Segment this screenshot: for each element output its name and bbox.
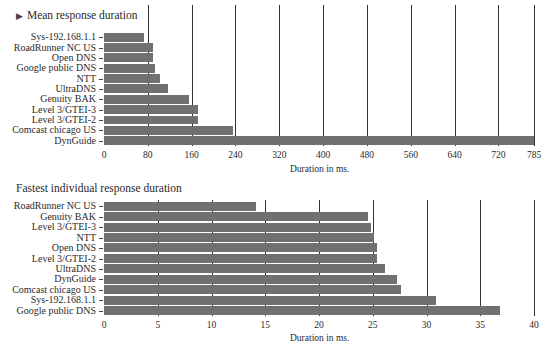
category-label: DynGuide (0, 274, 96, 284)
triangle-marker-icon: ▶ (16, 11, 23, 21)
tick-mark (99, 300, 103, 301)
bar (104, 254, 377, 263)
category-label: DynGuide (0, 136, 96, 146)
x-tick-label: 560 (404, 150, 418, 160)
x-tick-label: 80 (143, 150, 153, 160)
gridline (192, 5, 193, 146)
tick-mark (99, 279, 103, 280)
x-tick-label: 35 (476, 320, 486, 330)
category-label: Genuity BAK (0, 94, 96, 104)
x-tick-label: 640 (447, 150, 461, 160)
x-tick-label: 320 (272, 150, 286, 160)
tick-mark (99, 89, 103, 90)
x-tick-label: 10 (207, 320, 217, 330)
x-tick-label: 400 (316, 150, 330, 160)
gridline (411, 5, 412, 146)
bar (104, 306, 500, 315)
x-tick-label: 0 (102, 150, 107, 160)
category-label: RoadRunner NC US (0, 201, 96, 211)
x-tick-label: 20 (314, 320, 324, 330)
chart1-title-text: Mean response duration (27, 9, 138, 21)
bar (104, 74, 160, 83)
x-tick-label: 5 (155, 320, 160, 330)
gridline (498, 5, 499, 146)
bar (104, 84, 168, 93)
chart2-title: Fastest individual response duration (16, 182, 182, 194)
tick-mark (99, 259, 103, 260)
bar (104, 223, 371, 232)
tick-mark (99, 79, 103, 80)
x-tick-label: 240 (228, 150, 242, 160)
x-tick-label: 15 (261, 320, 271, 330)
bar (104, 95, 189, 104)
gridline (367, 5, 368, 146)
bar (104, 53, 153, 62)
gridline (480, 200, 481, 316)
bar (104, 233, 374, 242)
bar (104, 202, 256, 211)
category-label: Level 3/GTEI-2 (0, 254, 96, 264)
bar (104, 243, 377, 252)
category-label: Comcast chicago US (0, 125, 96, 135)
tick-mark (99, 290, 103, 291)
category-label: Open DNS (0, 243, 96, 253)
tick-mark (99, 227, 103, 228)
bar (104, 264, 385, 273)
tick-mark (99, 130, 103, 131)
gridline (534, 5, 535, 146)
bar (104, 64, 155, 73)
x-tick-label: 0 (102, 320, 107, 330)
x-axis-label: Duration in ms. (290, 333, 349, 343)
x-tick-label: 40 (529, 320, 539, 330)
bar (104, 126, 233, 135)
bar (104, 33, 144, 42)
bar (104, 116, 198, 125)
tick-mark (99, 99, 103, 100)
tick-mark (99, 141, 103, 142)
category-label: Level 3/GTEI-3 (0, 222, 96, 232)
tick-mark (99, 269, 103, 270)
tick-mark (99, 68, 103, 69)
tick-mark (99, 238, 103, 239)
gridline (279, 5, 280, 146)
gridline (323, 5, 324, 146)
bar (104, 285, 401, 294)
tick-mark (99, 110, 103, 111)
gridline (235, 5, 236, 146)
gridline (534, 200, 535, 316)
x-tick-label: 160 (185, 150, 199, 160)
tick-mark (99, 217, 103, 218)
chart1-title: ▶Mean response duration (16, 9, 137, 21)
tick-mark (99, 37, 103, 38)
tick-mark (99, 206, 103, 207)
x-tick-label: 25 (368, 320, 378, 330)
tick-mark (99, 58, 103, 59)
chart2-title-text: Fastest individual response duration (16, 182, 182, 194)
x-tick-label: 720 (491, 150, 505, 160)
x-tick-label: 785 (527, 150, 541, 160)
tick-mark (99, 248, 103, 249)
category-label: Google public DNS (0, 306, 96, 316)
gridline (455, 5, 456, 146)
tick-mark (99, 48, 103, 49)
category-label: Google public DNS (0, 63, 96, 73)
bar (104, 296, 436, 305)
x-tick-label: 480 (360, 150, 374, 160)
category-label: Sys-192.168.1.1 (0, 32, 96, 42)
bar (104, 105, 198, 114)
bar (104, 212, 368, 221)
x-axis-label: Duration in ms. (290, 164, 349, 174)
tick-mark (99, 120, 103, 121)
tick-mark (99, 311, 103, 312)
category-label: Sys-192.168.1.1 (0, 295, 96, 305)
bar (104, 136, 534, 145)
bar (104, 43, 153, 52)
x-tick-label: 30 (422, 320, 432, 330)
bar (104, 275, 397, 284)
